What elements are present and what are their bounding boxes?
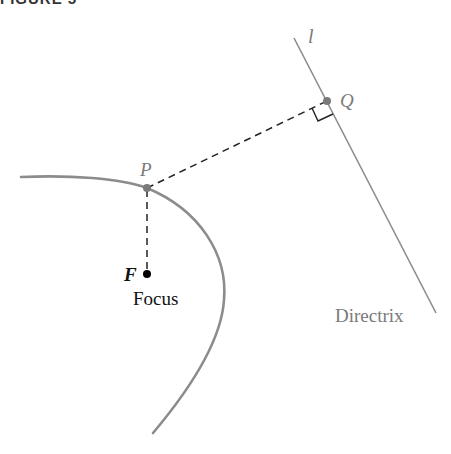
focus-point-dot — [143, 270, 151, 278]
focus-label: Focus — [133, 289, 178, 308]
parabola-curve — [21, 176, 224, 433]
directrix-line — [294, 38, 436, 313]
point-label-p: P — [140, 160, 152, 179]
point-q-dot — [323, 97, 331, 105]
point-label-f: F — [124, 265, 137, 284]
directrix-label: Directrix — [335, 306, 404, 325]
point-p-dot — [143, 184, 151, 192]
point-label-q: Q — [340, 91, 354, 110]
dashed-segment-pq — [147, 101, 327, 188]
right-angle-marker — [312, 108, 333, 121]
line-label-l: l — [308, 26, 314, 46]
diagram-graphics — [0, 0, 451, 454]
parabola-diagram: FIGURE 5 l Q P F Focus Directrix — [0, 0, 451, 454]
